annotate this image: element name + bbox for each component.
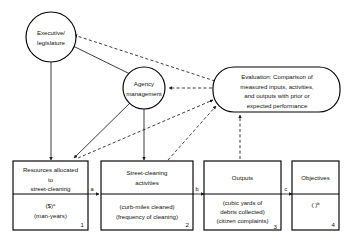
edge-label-c: c (285, 186, 288, 192)
edge-agency-to-executive (71, 45, 130, 74)
box2-bottom-line2: (frequency of cleaning) (116, 213, 178, 220)
edge-label-a: a (90, 186, 94, 192)
node-executive-legislature[interactable] (26, 12, 76, 62)
box3-number: 3 (274, 223, 278, 230)
node-agency-management[interactable] (123, 67, 165, 109)
box2-bottom-line1: (curb-miles cleaned) (119, 203, 174, 210)
box1-number: 1 (81, 221, 85, 228)
box3-top-line1: Outputs (232, 174, 253, 181)
box3-bottom-line1: (cubic yards of (223, 199, 263, 206)
edge-label-b: b (195, 186, 198, 192)
box2-top-line2: activities (135, 179, 158, 186)
box1-top-line3: street-cleaning (31, 185, 71, 192)
diagram-canvas: Executive/ legislature Agency management… (0, 0, 348, 242)
box4-top-line1: Objectives (301, 174, 329, 181)
executive-label-line2: legislature (37, 39, 65, 46)
evaluation-label-line2: measured inputs, activities, (240, 83, 314, 90)
box3-bottom-line3: (citizen complaints) (216, 217, 268, 224)
node-box-objectives[interactable] (292, 161, 339, 230)
evaluation-label-line3: and outputs with prior or (244, 92, 309, 99)
box1-top-line2: to (48, 176, 54, 183)
box1-top-line1: Resources allocated (23, 166, 78, 173)
box3-bottom-line2: debris collected) (220, 208, 264, 215)
executive-label-line1: Executive/ (37, 29, 65, 36)
edge-agency-to-resources (74, 102, 131, 158)
evaluation-label-line1: Evaluation: Comparison of (241, 73, 313, 80)
agency-label-line2: management (126, 90, 162, 97)
box2-number: 2 (186, 221, 190, 228)
box1-bottom-line2: (man-years) (34, 212, 67, 219)
edge-activities-to-evaluation (168, 106, 216, 160)
evaluation-label-line4: expected performance (247, 102, 308, 109)
box2-top-line1: Street-cleaning (127, 169, 168, 176)
flow-diagram: Executive/ legislature Agency management… (0, 0, 348, 242)
agency-label-line1: Agency (134, 80, 155, 87)
box4-number: 4 (332, 221, 336, 228)
